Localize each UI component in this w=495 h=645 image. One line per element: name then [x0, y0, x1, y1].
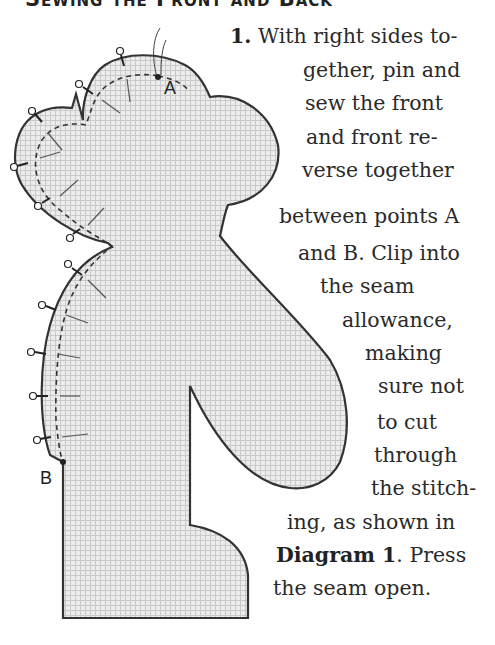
- step-number: 1.: [230, 24, 251, 48]
- text-line: the seam: [320, 276, 414, 297]
- text-line: Diagram 1. Press: [276, 545, 466, 566]
- text-line: the stitch-: [371, 478, 476, 499]
- diagram-reference: Diagram 1: [276, 543, 396, 567]
- text-line: to cut: [377, 412, 437, 433]
- point-b-label: B: [40, 468, 52, 488]
- text-line: making: [365, 343, 442, 364]
- text-line: the seam open.: [273, 578, 431, 599]
- text-line: sure not: [378, 376, 464, 397]
- text-line: verse together: [302, 160, 454, 181]
- text-line: 1. With right sides to-: [230, 26, 457, 47]
- text-line: sew the front: [305, 93, 443, 114]
- text-line: between points A: [279, 206, 459, 227]
- text-line: and front re-: [306, 127, 438, 148]
- point-a-label: A: [164, 78, 176, 98]
- text-line: and B. Clip into: [298, 243, 460, 264]
- text-line: through: [374, 445, 457, 466]
- text-line: allowance,: [342, 310, 453, 331]
- point-b-marker: [60, 459, 66, 465]
- text-line: ing, as shown in: [287, 512, 455, 533]
- point-a-marker: [155, 74, 161, 80]
- text-line: gether, pin and: [303, 60, 460, 81]
